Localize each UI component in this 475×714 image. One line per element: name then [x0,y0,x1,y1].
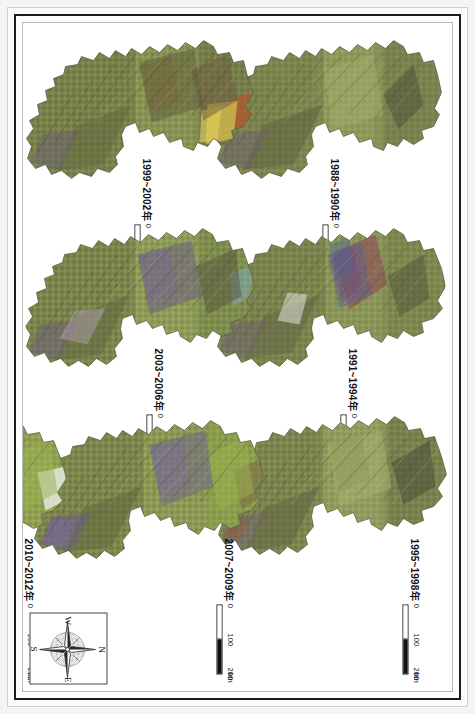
map-image-2003-2006 [25,224,255,374]
scale-tick-0: 0 [412,603,420,607]
year-label-1991-1994: 1991~1994年 [346,348,357,410]
year-label-2007-2009: 2007~2009年 [222,538,233,600]
scale-tick-100: 100 [412,633,420,646]
map-panel-1999-2002[interactable]: 1999~2002年 0 100 200 km [25,30,255,230]
map-panel-2003-2006[interactable]: 2003~2006年 0 100 200 km [23,220,257,420]
year-label-1995-1998: 1995~1998年 [408,538,419,600]
compass-inset: N E S W [29,612,107,684]
scale-bar-1995-1998: 0 100 200 km [402,604,419,674]
compass-west-label: W [62,616,72,625]
compass-south-label: S [28,646,38,651]
scale-tick-0: 0 [226,603,234,607]
scale-tick-100: 100 [226,633,234,646]
compass-east-label: E [62,677,72,683]
scale-tick-0: 0 [26,603,34,607]
legend-1995-1998: 1995~1998年 0 100 200 km [402,538,419,674]
page-frame-inner: 1988~1990年 0 100 200 km [22,22,453,692]
rotated-figure-canvas: 1988~1990年 0 100 200 km [22,22,453,692]
scale-unit-label: km [412,672,420,682]
year-label-2003-2006: 2003~2006年 [152,348,163,410]
figure-page: 1988~1990年 0 100 200 km [0,0,475,714]
scale-unit-label: km [226,672,234,682]
year-label-1988-1990: 1988~1990年 [328,158,339,220]
compass-north-label: N [96,646,106,653]
year-label-1999-2002: 1999~2002年 [140,158,151,220]
legend-2007-2009: 2007~2009年 0 100 200 km [216,538,233,674]
year-label-2010-2012: 2010~2012年 [22,538,33,600]
scale-bar-2007-2009: 0 100 200 km [216,604,233,674]
map-panel-2010-2012[interactable]: 2010~2012年 0 100 200 km [22,410,67,610]
